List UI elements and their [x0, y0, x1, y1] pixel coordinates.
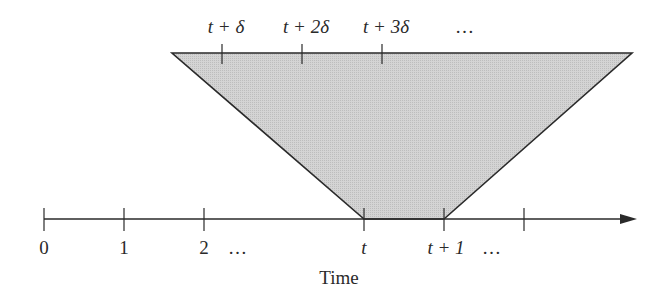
axis-ellipsis-1: …: [228, 237, 251, 258]
top-ellipsis: …: [455, 16, 478, 37]
time-axis-arrow-icon: [620, 214, 637, 224]
axis-label-1: 1: [119, 237, 129, 258]
axis-ellipsis-2: …: [482, 237, 505, 258]
axis-title: Time: [319, 267, 358, 288]
axis-label-t: t: [361, 237, 367, 258]
axis-label-2: 2: [199, 237, 209, 258]
top-label-t-plus-delta: t + δ: [208, 16, 246, 37]
diagram-canvas: t + δ t + 2δ t + 3δ … 0 1 2 … t t + 1 … …: [0, 0, 671, 308]
axis-label-t-plus-1: t + 1: [427, 237, 464, 258]
top-label-t-plus-3delta: t + 3δ: [363, 16, 410, 37]
timeline-diagram: t + δ t + 2δ t + 3δ … 0 1 2 … t t + 1 … …: [0, 0, 671, 308]
axis-label-0: 0: [39, 237, 49, 258]
top-label-t-plus-2delta: t + 2δ: [283, 16, 330, 37]
shaded-window-region: [172, 53, 632, 219]
